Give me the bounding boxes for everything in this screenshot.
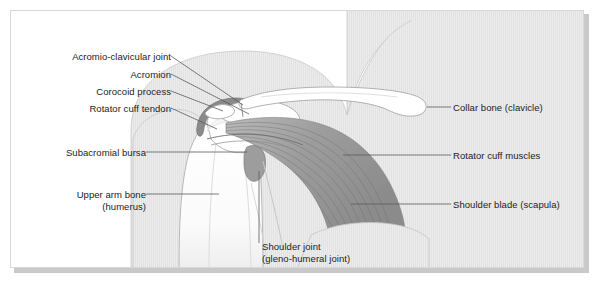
torso-mass	[411, 11, 584, 268]
label-shoulder-joint-line1: Shoulder joint	[262, 241, 422, 253]
label-rotator-cuff-muscles: Rotator cuff muscles	[453, 150, 583, 162]
label-collar-bone: Collar bone (clavicle)	[453, 102, 583, 114]
label-upper-arm-bone-line1: Upper arm bone	[11, 189, 146, 201]
label-acromio-clavicular-joint: Acromio-clavicular joint	[11, 51, 171, 63]
label-shoulder-joint-line2: (gleno-humeral joint)	[262, 253, 422, 265]
figure-frame: Acromio-clavicular joint Acromion Coroco…	[10, 10, 584, 268]
label-subacromial-bursa: Subacromial bursa	[11, 147, 146, 159]
label-acromion: Acromion	[11, 69, 171, 81]
label-upper-arm-bone-line2: (humerus)	[11, 201, 146, 213]
subacromial-bursa	[244, 145, 266, 181]
label-rotator-cuff-tendon: Rotator cuff tendon	[11, 103, 171, 115]
label-shoulder-blade: Shoulder blade (scapula)	[453, 199, 584, 211]
label-corocoid-process: Corocoid process	[11, 86, 171, 98]
anatomy-illustration	[11, 11, 584, 268]
shoulder-anatomy-figure: Acromio-clavicular joint Acromion Coroco…	[0, 0, 599, 285]
